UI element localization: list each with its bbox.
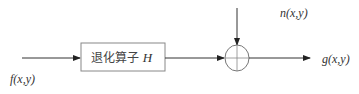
input-label: f(x,y) (10, 72, 35, 86)
noise-label: n(x,y) (280, 6, 308, 20)
output-label: g(x,y) (322, 52, 350, 66)
summing-junction (225, 45, 249, 71)
degradation-model-diagram: 退化算子 H f(x,y) n(x,y) g(x,y) (0, 0, 359, 94)
degradation-operator-label: 退化算子 H (91, 50, 153, 65)
